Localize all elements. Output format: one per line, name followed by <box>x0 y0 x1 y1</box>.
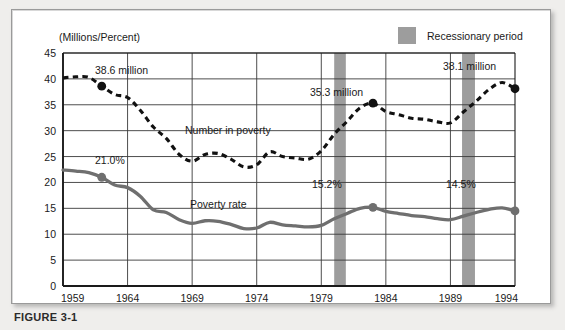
annotation-35-3-million: 35.3 million <box>310 86 363 98</box>
y-tick-label-40: 40 <box>44 73 56 85</box>
y-tick-label-30: 30 <box>44 125 56 137</box>
y-tick-label-10: 10 <box>44 228 56 240</box>
data-point-marker-a1 <box>97 82 106 91</box>
plot-frame <box>63 53 515 286</box>
series-line-number-in-poverty <box>63 76 515 167</box>
poverty-chart: 051015202530354045 195919641969197419791… <box>12 10 552 305</box>
x-tick-label-1994: 1994 <box>495 292 519 304</box>
annotation-21-0-percent: 21.0% <box>95 154 125 166</box>
vertical-gridlines <box>128 53 451 286</box>
annotation-14-5-percent: 14.5% <box>446 178 476 190</box>
y-tick-label-5: 5 <box>50 254 56 266</box>
series-label-poverty-rate: Poverty rate <box>190 198 247 210</box>
x-tick-label-1984: 1984 <box>374 292 398 304</box>
y-tick-label-35: 35 <box>44 99 56 111</box>
y-tick-label-0: 0 <box>50 280 56 292</box>
y-tick-label-15: 15 <box>44 202 56 214</box>
x-axis-tick-labels: 19591964196919741979198419891994 <box>61 292 518 304</box>
data-point-marker-a6 <box>511 207 520 216</box>
data-point-marker-a4 <box>369 203 378 212</box>
x-tick-label-1959: 1959 <box>61 292 85 304</box>
figure-root: 051015202530354045 195919641969197419791… <box>0 0 565 330</box>
annotation-38-6-million: 38.6 million <box>95 64 148 76</box>
y-axis-tick-labels: 051015202530354045 <box>44 47 56 292</box>
x-tick-label-1989: 1989 <box>439 292 463 304</box>
data-point-marker-a2 <box>97 173 106 182</box>
y-tick-label-25: 25 <box>44 151 56 163</box>
legend-swatch-recessionary-period <box>398 27 416 44</box>
y-tick-label-45: 45 <box>44 47 56 59</box>
x-tick-label-1974: 1974 <box>245 292 269 304</box>
recession-band-2 <box>462 53 475 286</box>
y-tick-label-20: 20 <box>44 176 56 188</box>
chart-card: 051015202530354045 195919641969197419791… <box>11 9 551 304</box>
x-tick-label-1969: 1969 <box>180 292 204 304</box>
annotation-38-1-million: 38.1 million <box>443 60 496 72</box>
y-axis-title: (Millions/Percent) <box>59 31 140 43</box>
annotation-markers <box>97 82 519 216</box>
x-tick-label-1964: 1964 <box>116 292 140 304</box>
horizontal-gridlines <box>63 53 515 260</box>
x-tick-label-1979: 1979 <box>310 292 334 304</box>
annotation-15-2-percent: 15.2% <box>312 178 342 190</box>
figure-caption: FIGURE 3-1 <box>14 311 554 330</box>
data-point-marker-a3 <box>369 99 378 108</box>
legend-label-recessionary-period: Recessionary period <box>427 30 523 42</box>
data-point-marker-a5 <box>511 84 520 93</box>
series-label-number-in-poverty: Number in poverty <box>185 124 272 136</box>
